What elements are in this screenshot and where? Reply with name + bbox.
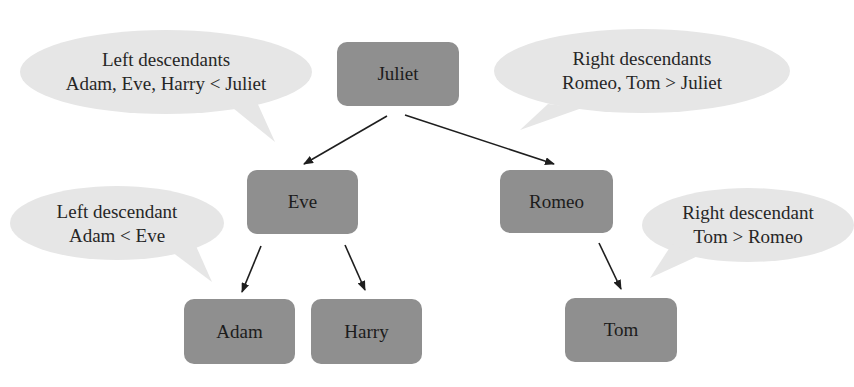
edge-juliet-eve (304, 116, 387, 164)
edge-romeo-tom (599, 243, 621, 289)
callout-line: Left descendant (10, 200, 224, 224)
callout-line: Left descendants (20, 48, 312, 72)
callout-eve-left: Left descendant Adam < Eve (10, 200, 224, 248)
callout-line: Adam < Eve (10, 224, 224, 248)
callout-romeo-right: Right descendant Tom > Romeo (642, 201, 854, 249)
tree-node-harry: Harry (311, 299, 422, 364)
node-label: Romeo (529, 191, 584, 213)
callout-line: Tom > Romeo (642, 225, 854, 249)
callout-juliet-right: Right descendants Romeo, Tom > Juliet (494, 47, 790, 95)
node-label: Juliet (377, 63, 418, 85)
edge-eve-adam (242, 246, 261, 292)
tree-node-romeo: Romeo (500, 170, 613, 233)
node-label: Harry (344, 321, 388, 343)
callout-juliet-left: Left descendants Adam, Eve, Harry < Juli… (20, 48, 312, 96)
edge-eve-harry (345, 245, 365, 290)
callout-line: Right descendants (494, 47, 790, 71)
node-label: Tom (604, 319, 639, 341)
callout-line: Romeo, Tom > Juliet (494, 71, 790, 95)
callout-line: Adam, Eve, Harry < Juliet (20, 72, 312, 96)
tree-node-juliet: Juliet (337, 42, 459, 106)
tree-node-tom: Tom (565, 298, 677, 362)
callout-line: Right descendant (642, 201, 854, 225)
node-label: Adam (216, 321, 262, 343)
tree-node-adam: Adam (184, 299, 295, 364)
node-label: Eve (288, 191, 318, 213)
tree-node-eve: Eve (247, 170, 358, 234)
